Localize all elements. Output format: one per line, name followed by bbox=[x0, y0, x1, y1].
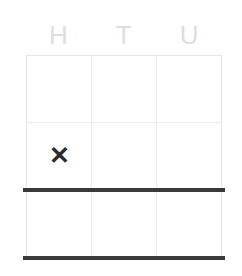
grid-row: ✕ bbox=[27, 123, 221, 190]
grid-cell-row2-hundreds[interactable]: ✕ bbox=[27, 123, 92, 189]
grid-cell-row2-tens[interactable] bbox=[92, 123, 157, 189]
column-header-units-label: U bbox=[180, 22, 199, 48]
place-value-worksheet: H T U ✕ bbox=[0, 0, 242, 276]
column-header-tens: T bbox=[91, 16, 156, 54]
grid-row bbox=[27, 191, 221, 257]
answer-rule-line bbox=[23, 188, 225, 192]
column-header-units: U bbox=[157, 16, 222, 54]
grid-cell-row1-units[interactable] bbox=[157, 56, 221, 122]
column-header-hundreds: H bbox=[26, 16, 91, 54]
column-header-tens-label: T bbox=[116, 22, 132, 48]
column-header-row: H T U bbox=[26, 16, 222, 54]
x-mark-icon: ✕ bbox=[49, 143, 70, 168]
column-header-hundreds-label: H bbox=[49, 22, 68, 48]
grid-cell-row3-units[interactable] bbox=[157, 191, 221, 257]
grid-cell-row3-hundreds[interactable] bbox=[27, 191, 92, 257]
bottom-rule-line bbox=[23, 256, 225, 260]
place-value-grid: ✕ bbox=[26, 55, 222, 258]
grid-cell-row1-hundreds[interactable] bbox=[27, 56, 92, 122]
grid-row bbox=[27, 56, 221, 123]
grid-cell-row1-tens[interactable] bbox=[92, 56, 157, 122]
grid-cell-row3-tens[interactable] bbox=[92, 191, 157, 257]
grid-cell-row2-units[interactable] bbox=[157, 123, 221, 189]
